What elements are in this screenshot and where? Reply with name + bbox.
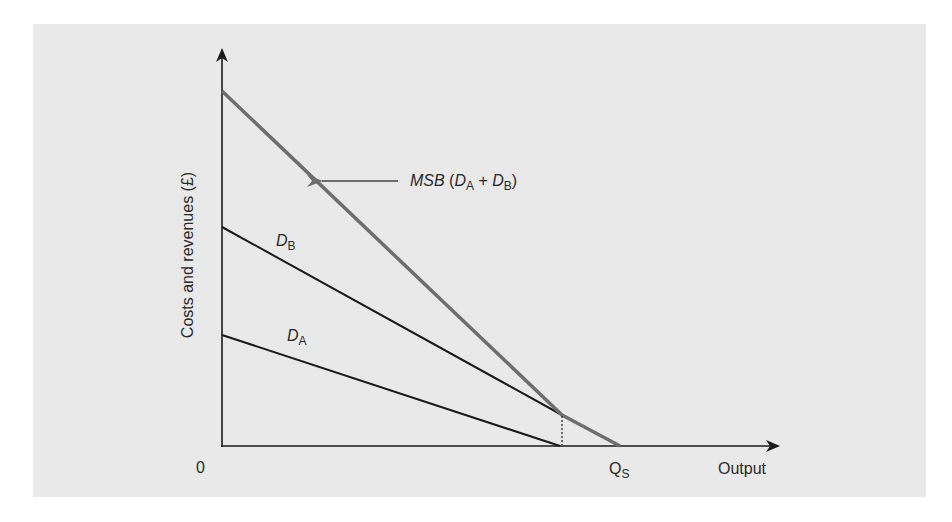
y-axis-label: Costs and revenues (£) bbox=[179, 172, 197, 338]
x-axis-label: Output bbox=[718, 460, 766, 478]
da-label: DA bbox=[287, 327, 307, 345]
db-label-main: D bbox=[276, 232, 288, 249]
db-label-sub: B bbox=[288, 239, 296, 253]
da-label-sub: A bbox=[299, 334, 307, 348]
msb-label-db: D bbox=[492, 172, 504, 189]
msb-label-da: D bbox=[454, 172, 466, 189]
qs-label-main: Q bbox=[609, 460, 621, 477]
msb-label-close: ) bbox=[512, 172, 517, 189]
qs-label-sub: S bbox=[621, 467, 629, 481]
msb-label-db-sub: B bbox=[504, 179, 512, 193]
msb-label-da-sub: A bbox=[466, 179, 474, 193]
da-line bbox=[222, 335, 560, 446]
msb-label: MSB (DA + DB) bbox=[410, 172, 517, 190]
chart-svg bbox=[0, 0, 952, 522]
db-label: DB bbox=[276, 232, 296, 250]
msb-line bbox=[222, 91, 620, 446]
qs-label: QS bbox=[609, 460, 629, 478]
msb-label-main: MSB bbox=[410, 172, 445, 189]
origin-label: 0 bbox=[196, 459, 205, 477]
da-label-main: D bbox=[287, 327, 299, 344]
msb-label-open: ( bbox=[445, 172, 455, 189]
msb-label-plus: + bbox=[474, 172, 492, 189]
